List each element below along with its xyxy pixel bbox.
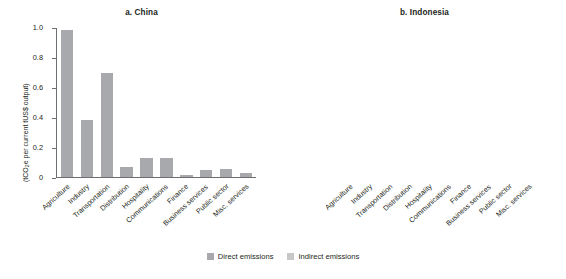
y-tick-mark xyxy=(52,118,56,119)
legend-label-direct: Direct emissions xyxy=(218,252,274,261)
legend-swatch-indirect-icon xyxy=(287,253,294,260)
x-axis-line xyxy=(56,177,256,178)
y-tick-label: 0.8 xyxy=(33,53,43,62)
panel-indonesia: b. Indonesia (tCO2e per current tUS$ out… xyxy=(283,0,566,250)
bar xyxy=(101,73,113,177)
bar xyxy=(81,120,93,177)
bar xyxy=(160,158,172,177)
bar xyxy=(240,173,252,177)
legend-swatch-direct-icon xyxy=(207,253,214,260)
panel-china-plot-area: 1.0 0.8 0.6 0.4 0.2 0 xyxy=(56,28,256,178)
panel-indonesia-x-axis-labels: AgricultureIndustryTransportationDistrib… xyxy=(283,180,566,250)
y-tick-label: 0.4 xyxy=(33,113,43,122)
y-tick-label: 0.6 xyxy=(33,83,43,92)
bar xyxy=(200,170,212,177)
y-axis-label-suffix: e per current tUS$ output) xyxy=(22,83,29,164)
legend: Direct emissions Indirect emissions xyxy=(0,252,566,261)
panel-china: a. China (tCO2e per current tUS$ output)… xyxy=(0,0,283,250)
bar xyxy=(140,158,152,177)
panel-indonesia-title: b. Indonesia xyxy=(283,8,566,17)
y-tick-label: 0.2 xyxy=(33,143,43,152)
y-tick-mark xyxy=(52,28,56,29)
legend-item-direct-emissions: Direct emissions xyxy=(207,252,274,261)
y-tick-mark xyxy=(52,58,56,59)
bar xyxy=(120,167,132,177)
panel-china-y-axis-label: (tCO2e per current tUS$ output) xyxy=(22,83,30,182)
y-tick-mark xyxy=(52,88,56,89)
panel-china-bars xyxy=(57,28,256,177)
bar xyxy=(180,175,192,177)
legend-item-indirect-emissions: Indirect emissions xyxy=(287,252,359,261)
legend-label-indirect: Indirect emissions xyxy=(298,252,359,261)
bar xyxy=(61,30,73,178)
panel-china-title: a. China xyxy=(0,8,283,17)
emissions-intensity-figure: a. China (tCO2e per current tUS$ output)… xyxy=(0,0,566,279)
x-axis-category-label: Agriculture xyxy=(323,182,355,212)
x-axis-category-label: Agriculture xyxy=(40,182,72,212)
y-tick-mark xyxy=(52,178,56,179)
y-axis-label-subscript: 2 xyxy=(24,164,30,167)
y-tick-mark xyxy=(52,148,56,149)
bar xyxy=(220,169,232,177)
y-tick-label: 1.0 xyxy=(33,23,43,32)
panel-china-x-axis-labels: AgricultureIndustryTransportationDistrib… xyxy=(0,180,283,250)
